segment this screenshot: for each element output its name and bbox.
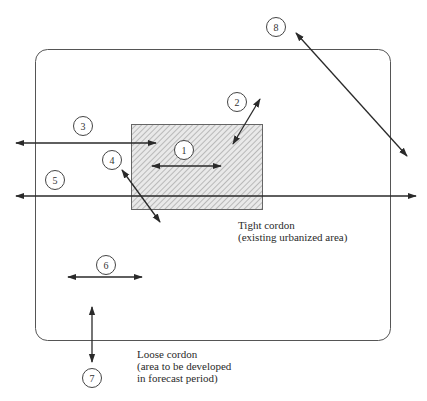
tight-cordon-area	[132, 125, 263, 210]
svg-text:5: 5	[53, 175, 58, 186]
marker-5: 5	[46, 171, 65, 190]
marker-2: 2	[228, 93, 247, 112]
svg-text:3: 3	[81, 121, 86, 132]
cordon-diagram: 1 2 3 4 5 6 7 8	[0, 0, 427, 401]
loose-cordon-label-line2: (area to be developed	[137, 360, 231, 372]
svg-text:1: 1	[182, 145, 187, 156]
marker-1: 1	[175, 141, 194, 160]
svg-text:6: 6	[104, 260, 109, 271]
tight-cordon-label: Tight cordon (existing urbanized area)	[238, 219, 347, 243]
svg-text:7: 7	[90, 373, 95, 384]
loose-cordon-label-line3: in forecast period)	[137, 372, 231, 384]
tight-cordon-label-line1: Tight cordon	[238, 219, 347, 231]
svg-text:8: 8	[274, 22, 279, 33]
marker-7: 7	[83, 369, 102, 388]
tight-cordon-label-line2: (existing urbanized area)	[238, 231, 347, 243]
svg-text:4: 4	[110, 155, 115, 166]
marker-6: 6	[97, 256, 116, 275]
marker-3: 3	[74, 117, 93, 136]
loose-cordon-label-line1: Loose cordon	[137, 348, 231, 360]
marker-4: 4	[103, 151, 122, 170]
svg-text:2: 2	[235, 97, 240, 108]
loose-cordon-label: Loose cordon (area to be developed in fo…	[137, 348, 231, 384]
marker-8: 8	[267, 18, 286, 37]
